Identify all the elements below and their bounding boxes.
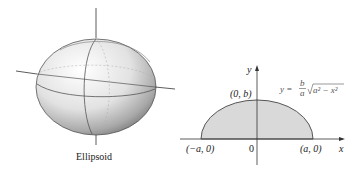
- y-axis-label: y: [246, 64, 252, 75]
- ellipsoid-horizontal-axis-right: [155, 87, 175, 89]
- origin-label: 0: [249, 143, 254, 154]
- equation-fraction-denominator: a: [300, 88, 305, 98]
- x-axis-arrow-icon: [339, 137, 345, 141]
- y-axis-arrow-icon: [255, 65, 259, 71]
- point-top-label: (0, b): [230, 88, 252, 100]
- half-ellipse-graph: y x 0 (−a, 0) (a, 0) (0, b) y = b a a² −…: [180, 64, 345, 165]
- ellipsoid-figure: Ellipsoid: [16, 8, 175, 162]
- point-left-label: (−a, 0): [186, 143, 215, 155]
- figure-canvas: Ellipsoid y x 0 (−a, 0) (a, 0) (0, b) y …: [0, 0, 357, 177]
- equation-radicand: a² − x²: [313, 85, 338, 95]
- ellipsoid-caption: Ellipsoid: [76, 151, 112, 162]
- curve-equation: y = b a a² − x²: [279, 78, 344, 98]
- point-right-label: (a, 0): [300, 143, 322, 155]
- equation-lhs: y =: [279, 84, 292, 94]
- equation-fraction-numerator: b: [300, 78, 305, 88]
- x-axis-label: x: [338, 143, 344, 154]
- ellipsoid-horizontal-axis-left: [16, 71, 37, 74]
- ellipsoid-body: [36, 39, 156, 135]
